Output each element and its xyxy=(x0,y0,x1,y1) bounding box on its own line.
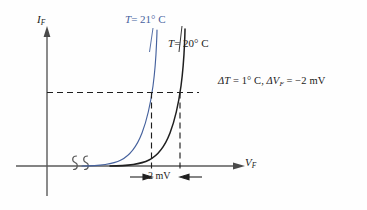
curve-21c-path xyxy=(82,30,157,166)
diode-temperature-figure: T= 21° C T= 20° C IF VF ΔT = 1° C, ΔVF =… xyxy=(0,0,367,210)
curve-label-21c-value: = 21° C xyxy=(131,13,165,25)
axis-break-icon xyxy=(73,156,89,170)
delta-annotation-dv: ΔV xyxy=(267,75,280,86)
x-axis-label: VF xyxy=(245,157,256,169)
delta-v-measure-label: 2 mV xyxy=(148,171,171,181)
delta-annotation-dv-value: = −2 mV xyxy=(284,75,326,86)
curve-label-21c: T= 21° C xyxy=(125,14,166,25)
x-axis-label-subscript: F xyxy=(252,161,257,170)
leader-line-21c xyxy=(150,28,154,52)
curve-20c-path xyxy=(110,29,185,166)
y-axis-arrowhead xyxy=(44,26,51,37)
delta-annotation-dt: ΔT xyxy=(218,75,230,86)
curve-label-20c-value: = 20° C xyxy=(174,37,208,49)
y-axis-label: IF xyxy=(37,14,45,26)
delta-annotation-dt-value: = 1° C, xyxy=(230,75,266,86)
x-axis-arrowhead xyxy=(233,162,245,169)
y-axis-label-subscript: F xyxy=(41,18,46,27)
delta-annotation: ΔT = 1° C, ΔVF = −2 mV xyxy=(218,76,325,88)
figure-canvas xyxy=(0,0,367,210)
x-axis-label-symbol: V xyxy=(245,156,252,168)
curve-label-20c: T= 20° C xyxy=(168,38,209,49)
